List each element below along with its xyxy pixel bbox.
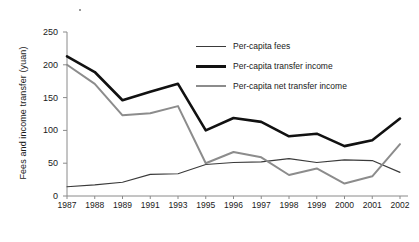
legend-swatch-per-capita-net-transfer-income [196,85,226,87]
x-tick-label: 1995 [196,200,215,210]
chart-legend: Per-capita fees Per-capita transfer inco… [196,38,347,98]
legend-label-per-capita-net-transfer-income: Per-capita net transfer income [233,81,347,91]
x-tick-label: 1996 [224,200,243,210]
x-tick-label: 1991 [141,200,160,210]
x-tick-label: 2000 [335,200,354,210]
x-tick-label: 1993 [169,200,188,210]
legend-label-per-capita-fees: Per-capita fees [233,41,290,51]
legend-label-per-capita-transfer-income: Per-capita transfer income [233,61,333,71]
legend-swatch-per-capita-fees [196,46,226,47]
legend-item-per-capita-net-transfer-income: Per-capita net transfer income [196,78,347,94]
x-tick-label: 1989 [113,200,132,210]
legend-swatch-per-capita-transfer-income [196,65,226,68]
chart-container: Fees and income transfer (yuan) 25020015… [0,0,419,242]
x-tick-label: 1988 [85,200,104,210]
scan-artifact-speck [79,9,81,11]
x-tick-label: 2001 [363,200,382,210]
x-tick-label: 1997 [252,200,271,210]
x-tick-label: 1998 [280,200,299,210]
x-tick-label: 1999 [307,200,326,210]
legend-item-per-capita-fees: Per-capita fees [196,38,347,54]
x-tick-label: 2002 [391,200,410,210]
legend-item-per-capita-transfer-income: Per-capita transfer income [196,58,347,74]
x-tick-label: 1987 [58,200,77,210]
